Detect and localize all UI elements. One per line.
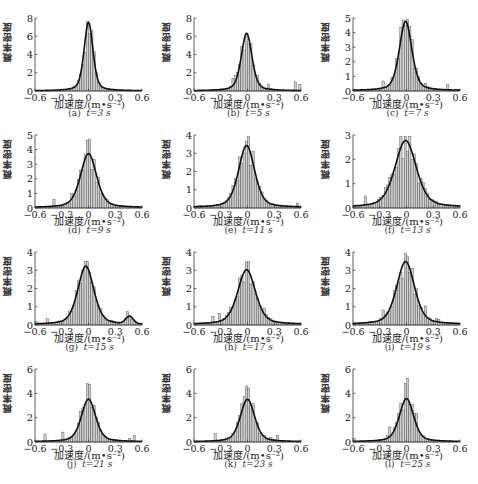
histogram-bars: [353, 19, 460, 91]
y-axis-label: 概率密度: [3, 256, 15, 296]
y-tick-label: 4: [27, 144, 33, 155]
y-tick-label: 2: [186, 412, 192, 423]
panel-time: t=21 s: [82, 459, 112, 469]
y-tick-label: 4: [186, 49, 192, 60]
y-tick-label: 2: [27, 173, 33, 184]
chart-panel-j: 0246−0.6−0.300.30.6概率密度加速度/(m•s⁻²)(j) t=…: [0, 351, 159, 468]
y-axis-label: 概率密度: [162, 256, 174, 296]
y-tick-label: 3: [27, 265, 33, 276]
panel-time: t=25 s: [400, 459, 430, 469]
y-tick-label: 2: [186, 166, 192, 177]
panel-caption: (j) t=21 s: [20, 459, 159, 469]
panel-caption: (k) t=23 s: [179, 459, 318, 469]
histogram-bars: [35, 139, 142, 208]
y-tick-label: 4: [27, 388, 33, 399]
y-axis-label: 概率密度: [162, 373, 174, 413]
y-tick-label: 8: [27, 13, 33, 24]
histogram-bars: [194, 33, 301, 91]
y-tick-label: 3: [27, 159, 33, 170]
y-tick-label: 5: [27, 130, 33, 141]
y-tick-label: 2: [186, 283, 192, 294]
panel-caption: (l) t=25 s: [338, 459, 477, 469]
chart-panel-a: 02468−0.6−0.300.30.6概率密度加速度/(m•s⁻²)(a) t…: [0, 0, 159, 117]
y-tick-label: 6: [345, 364, 351, 375]
histogram-bars: [35, 384, 142, 442]
chart-panel-i: 01234−0.6−0.300.30.6概率密度加速度/(m•s⁻²)(i) t…: [318, 234, 477, 351]
panel-time: t=23 s: [243, 459, 273, 469]
y-axis-label: 概率密度: [3, 373, 15, 413]
y-tick-label: 2: [27, 283, 33, 294]
y-tick-label: 4: [27, 49, 33, 60]
y-tick-label: 1: [345, 301, 351, 312]
y-tick-label: 2: [186, 67, 192, 78]
y-tick-label: 2: [345, 154, 351, 165]
y-tick-label: 6: [186, 31, 192, 42]
chart-panel-k: 0246−0.6−0.300.30.6概率密度加速度/(m•s⁻²)(k) t=…: [159, 351, 318, 468]
y-tick-label: 1: [345, 178, 351, 189]
chart-panel-c: 012345−0.6−0.300.30.6概率密度加速度/(m•s⁻²)(c) …: [318, 0, 477, 117]
y-tick-label: 8: [186, 13, 192, 24]
y-axis-label: 概率密度: [3, 22, 15, 62]
y-tick-label: 2: [345, 412, 351, 423]
chart-panel-d: 012345−0.6−0.300.30.6概率密度加速度/(m•s⁻²)(d) …: [0, 117, 159, 234]
y-axis-label: 概率密度: [321, 22, 333, 62]
chart-panel-g: 01234−0.6−0.300.30.6概率密度加速度/(m•s⁻²)(g) t…: [0, 234, 159, 351]
y-tick-label: 1: [186, 184, 192, 195]
panel-letter: (l): [385, 459, 395, 469]
y-tick-label: 4: [186, 130, 192, 141]
y-tick-label: 1: [345, 71, 351, 82]
chart-panel-e: 01234−0.6−0.300.30.6概率密度加速度/(m•s⁻²)(e) t…: [159, 117, 318, 234]
panel-letter: (j): [67, 459, 77, 469]
histogram-bars: [353, 253, 460, 325]
y-tick-label: 6: [186, 364, 192, 375]
y-axis-label: 概率密度: [321, 139, 333, 179]
chart-panel-h: 01234−0.6−0.300.30.6概率密度加速度/(m•s⁻²)(h) t…: [159, 234, 318, 351]
y-tick-label: 5: [345, 13, 351, 24]
y-axis-label: 概率密度: [3, 139, 15, 179]
y-tick-label: 3: [186, 148, 192, 159]
y-tick-label: 6: [27, 31, 33, 42]
y-tick-label: 3: [345, 42, 351, 53]
y-tick-label: 4: [186, 388, 192, 399]
y-tick-label: 1: [186, 301, 192, 312]
y-tick-label: 1: [27, 188, 33, 199]
y-tick-label: 2: [345, 283, 351, 294]
y-tick-label: 3: [345, 130, 351, 141]
y-tick-label: 4: [27, 247, 33, 258]
histogram-bars: [35, 21, 140, 91]
y-tick-label: 2: [27, 67, 33, 78]
chart-panel-f: 0123−0.6−0.300.30.6概率密度加速度/(m•s⁻²)(f) t=…: [318, 117, 477, 234]
panel-letter: (k): [224, 459, 236, 469]
y-tick-label: 1: [27, 301, 33, 312]
histogram-bars: [353, 136, 460, 208]
histogram-bars: [353, 378, 460, 442]
y-axis-label: 概率密度: [321, 373, 333, 413]
y-axis-label: 概率密度: [321, 256, 333, 296]
y-tick-label: 2: [27, 412, 33, 423]
y-tick-label: 4: [345, 388, 351, 399]
y-tick-label: 3: [345, 265, 351, 276]
y-tick-label: 4: [345, 27, 351, 38]
y-tick-label: 4: [345, 247, 351, 258]
histogram-bars: [194, 386, 301, 442]
chart-panel-l: 0246−0.6−0.300.30.6概率密度加速度/(m•s⁻²)(l) t=…: [318, 351, 477, 468]
y-axis-label: 概率密度: [162, 22, 174, 62]
y-tick-label: 2: [345, 56, 351, 67]
y-tick-label: 4: [186, 247, 192, 258]
chart-panel-b: 02468−0.6−0.300.30.6概率密度加速度/(m•s⁻²)(b) t…: [159, 0, 318, 117]
y-axis-label: 概率密度: [162, 139, 174, 179]
y-tick-label: 6: [27, 364, 33, 375]
y-tick-label: 3: [186, 265, 192, 276]
